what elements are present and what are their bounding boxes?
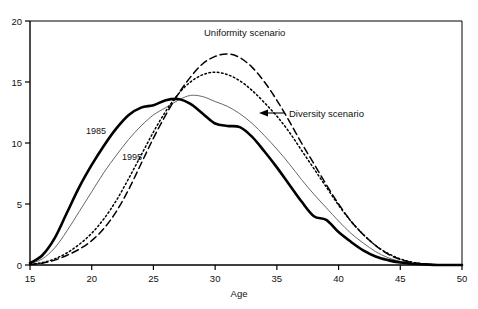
x-tick-label: 35 [272,273,283,284]
annotation-group: Uniformity scenario Diversity scenario 1… [86,27,364,162]
uniformity-scenario-label: Uniformity scenario [204,27,285,38]
series-label-1985: 1985 [86,126,106,136]
series-line-1995 [30,95,462,265]
y-tick-label: 0 [17,260,22,271]
diversity-scenario-label: Diversity scenario [289,108,364,119]
x-tick-label: 40 [333,273,344,284]
age-distribution-line-chart: 05101520 1520253035404550 Uniformity sce… [0,0,478,309]
data-series-group [30,54,462,265]
series-label-1995: 1995 [122,152,142,162]
y-tick-label: 10 [11,138,22,149]
series-line-diversity-scenario [30,72,462,265]
x-axis-title: Age [231,288,248,299]
x-tick-label: 50 [457,273,468,284]
plot-frame [30,21,462,265]
y-tick-label: 15 [11,77,22,88]
y-tick-label: 5 [17,199,22,210]
y-axis-ticks: 05101520 [11,16,30,271]
x-tick-label: 25 [148,273,159,284]
series-line-1985 [30,99,462,265]
x-axis-ticks: 1520253035404550 [25,265,468,284]
chart-container: 05101520 1520253035404550 Uniformity sce… [0,0,478,309]
x-tick-label: 30 [210,273,221,284]
x-tick-label: 15 [25,273,36,284]
x-tick-label: 20 [86,273,97,284]
x-tick-label: 45 [395,273,406,284]
y-tick-label: 20 [11,16,22,27]
